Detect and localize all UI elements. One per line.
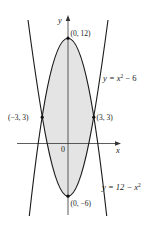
area-between-curves-diagram: y x 0 (0, 12) (−3, 3) (3, 3) (0, −6) y =…: [0, 0, 162, 230]
point-label-0-neg6: (0, −6): [71, 199, 92, 208]
point-label-3-3: (3, 3): [97, 113, 114, 122]
x-axis-label: x: [115, 145, 120, 155]
point-0-12: [66, 37, 69, 40]
point-label-0-12: (0, 12): [71, 29, 91, 38]
origin-label: 0: [61, 145, 65, 154]
point-3-3: [92, 116, 95, 119]
y-axis-arrow-icon: [66, 15, 71, 21]
point-0-neg6: [66, 195, 69, 198]
equation-label-upper-parabola: y = 12 − x2: [101, 182, 141, 193]
equation-label-lower-parabola: y = x2 − 6: [102, 73, 137, 84]
y-axis-label: y: [57, 15, 62, 25]
point-label-neg3-3: (−3, 3): [8, 113, 29, 122]
point-neg3-3: [41, 116, 44, 119]
